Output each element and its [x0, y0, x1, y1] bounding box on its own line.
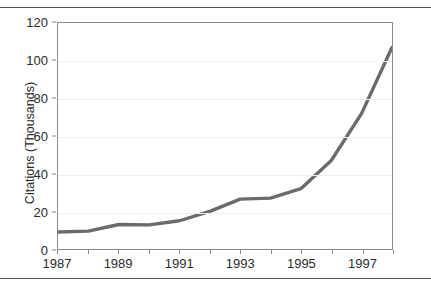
y-tick-mark-100	[52, 60, 56, 61]
y-tick-mark-80	[52, 98, 56, 99]
gridline-y-100	[58, 61, 392, 62]
x-tick-mark-1987	[57, 250, 58, 254]
y-tick-mark-20	[52, 212, 56, 213]
y-axis-tick-labels: 020406080100120	[0, 22, 52, 250]
x-tick-mark-1991	[179, 250, 180, 254]
x-tick-mark-1998	[393, 250, 394, 254]
x-tick-mark-1990	[149, 250, 150, 254]
page-root: Citations (Thousands) 020406080100120 19…	[0, 0, 431, 290]
x-tick-label-1989: 1989	[104, 257, 133, 270]
y-tick-label-100: 100	[26, 54, 48, 67]
x-tick-label-1997: 1997	[348, 257, 377, 270]
y-tick-label-60: 60	[34, 130, 48, 143]
x-tick-mark-1996	[332, 250, 333, 254]
citations-line	[58, 47, 392, 232]
y-tick-label-40: 40	[34, 168, 48, 181]
series-citations-path	[58, 23, 392, 249]
citations-line-chart: Citations (Thousands) 020406080100120 19…	[0, 8, 431, 278]
y-tick-mark-120	[52, 22, 56, 23]
bottom-divider-rule	[0, 278, 431, 279]
x-tick-label-1995: 1995	[287, 257, 316, 270]
gridline-y-60	[58, 137, 392, 138]
x-tick-label-1991: 1991	[165, 257, 194, 270]
plot-area	[57, 22, 393, 250]
gridline-y-20	[58, 213, 392, 214]
x-tick-mark-1988	[88, 250, 89, 254]
y-tick-label-0: 0	[41, 244, 48, 257]
x-tick-mark-1993	[240, 250, 241, 254]
y-tick-label-120: 120	[26, 16, 48, 29]
x-tick-mark-1997	[363, 250, 364, 254]
y-tick-mark-60	[52, 136, 56, 137]
gridline-y-80	[58, 99, 392, 100]
x-tick-label-1993: 1993	[226, 257, 255, 270]
y-tick-label-20: 20	[34, 206, 48, 219]
x-axis-tick-labels: 198719891991199319951997	[57, 250, 393, 276]
x-tick-mark-1994	[271, 250, 272, 254]
x-tick-label-1987: 1987	[43, 257, 72, 270]
y-tick-label-80: 80	[34, 92, 48, 105]
x-tick-mark-1995	[301, 250, 302, 254]
y-tick-mark-0	[52, 250, 56, 251]
y-tick-mark-40	[52, 174, 56, 175]
gridline-y-40	[58, 175, 392, 176]
x-tick-mark-1989	[118, 250, 119, 254]
x-tick-mark-1992	[210, 250, 211, 254]
